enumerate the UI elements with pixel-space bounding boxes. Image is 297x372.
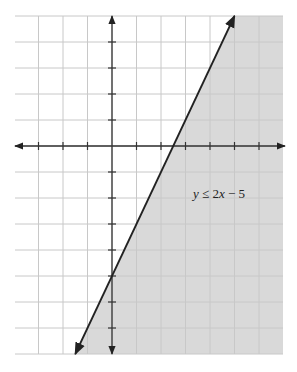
coordinate-plane	[0, 0, 297, 372]
const-text: − 5	[225, 186, 245, 201]
inequality-label: y ≤ 2x − 5	[193, 186, 245, 202]
shaded-solution-region	[75, 16, 283, 354]
op-text: ≤ 2	[199, 186, 219, 201]
